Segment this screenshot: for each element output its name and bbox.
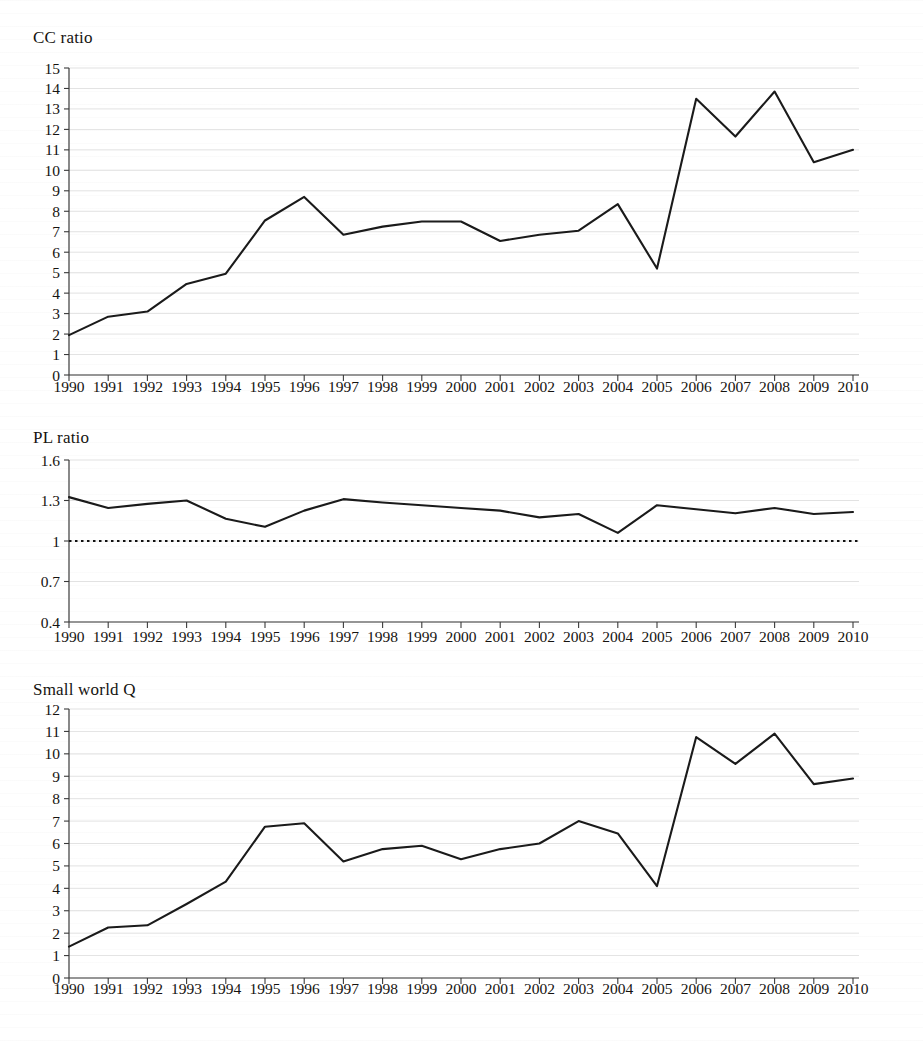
x-tick-label: 2010: [834, 378, 872, 396]
y-tick-label: 8: [52, 790, 60, 807]
x-tick-label: 2005: [638, 378, 676, 396]
x-tick-label: 2000: [442, 980, 480, 998]
x-tick-label: 2007: [716, 378, 754, 396]
x-tick-label: 1999: [403, 378, 441, 396]
y-tick-label: 9: [52, 182, 60, 199]
data-series-line: [69, 92, 853, 336]
y-tick-label: 13: [45, 100, 61, 117]
x-tick-label: 1991: [89, 980, 127, 998]
x-tick-label: 2008: [756, 980, 794, 998]
x-tick-label: 2002: [520, 378, 558, 396]
x-tick-label: 2009: [795, 378, 833, 396]
x-tick-label: 1995: [246, 628, 284, 646]
x-tick-label: 2007: [716, 628, 754, 646]
y-tick-label: 3: [52, 902, 60, 919]
x-tick-label: 1994: [207, 980, 245, 998]
x-tick-label: 2006: [677, 378, 715, 396]
x-tick-label: 1993: [168, 980, 206, 998]
x-tick-label: 1991: [89, 628, 127, 646]
y-tick-label: 7: [52, 813, 60, 830]
chart-svg-cc-ratio: 0123456789101112131415: [0, 0, 923, 410]
y-tick-label: 6: [52, 835, 60, 852]
x-tick-label: 1996: [285, 980, 323, 998]
data-series-line: [69, 497, 853, 533]
x-tick-label: 2003: [560, 628, 598, 646]
y-tick-label: 1.6: [41, 452, 61, 469]
x-tick-label: 1995: [246, 378, 284, 396]
y-tick-label: 9: [52, 768, 60, 785]
x-tick-label: 2005: [638, 628, 676, 646]
y-tick-label: 15: [45, 60, 61, 77]
x-tick-label: 1998: [364, 378, 402, 396]
x-tick-label: 2010: [834, 980, 872, 998]
x-tick-label: 2004: [599, 628, 637, 646]
x-tick-label: 2004: [599, 980, 637, 998]
y-tick-label: 3: [52, 305, 60, 322]
y-tick-label: 10: [45, 162, 61, 179]
x-tick-label: 2003: [560, 378, 598, 396]
x-tick-label: 2010: [834, 628, 872, 646]
y-tick-label: 14: [45, 80, 61, 97]
x-tick-label: 1996: [285, 628, 323, 646]
x-tick-label: 1998: [364, 980, 402, 998]
x-tick-label: 2001: [481, 628, 519, 646]
x-tick-label: 2002: [520, 628, 558, 646]
chart-svg-pl-ratio: 0.40.711.31.6: [0, 410, 923, 660]
x-tick-label: 1990: [50, 378, 88, 396]
y-tick-label: 1: [52, 346, 60, 363]
plot-area-pl-ratio: 0.40.711.31.6: [0, 410, 923, 660]
x-tick-label: 1992: [128, 980, 166, 998]
y-tick-label: 1.3: [41, 492, 61, 509]
y-tick-label: 4: [52, 880, 60, 897]
x-tick-label: 1992: [128, 378, 166, 396]
y-tick-label: 11: [45, 723, 60, 740]
chart-panel-cc-ratio: CC ratio 0123456789101112131415 19901991…: [0, 0, 923, 410]
x-tick-label: 2006: [677, 980, 715, 998]
y-tick-label: 8: [52, 203, 60, 220]
y-tick-label: 1: [52, 947, 60, 964]
x-tick-label: 2002: [520, 980, 558, 998]
y-tick-label: 6: [52, 244, 60, 261]
x-tick-label: 1997: [324, 628, 362, 646]
y-tick-label: 7: [52, 223, 60, 240]
chart-panel-pl-ratio: PL ratio 0.40.711.31.6 19901991199219931…: [0, 410, 923, 660]
x-tick-label: 1996: [285, 378, 323, 396]
x-tick-label: 2004: [599, 378, 637, 396]
x-tick-label: 2009: [795, 980, 833, 998]
y-tick-label: 2: [52, 326, 60, 343]
x-tick-label: 1997: [324, 378, 362, 396]
y-tick-label: 5: [52, 264, 60, 281]
x-tick-label: 2008: [756, 628, 794, 646]
y-tick-label: 2: [52, 925, 60, 942]
x-tick-label: 2008: [756, 378, 794, 396]
x-tick-label: 2000: [442, 378, 480, 396]
data-series-line: [69, 734, 853, 947]
chart-panel-small-world-q: Small world Q 0123456789101112 199019911…: [0, 660, 923, 1041]
x-tick-label: 2003: [560, 980, 598, 998]
x-tick-label: 2009: [795, 628, 833, 646]
x-tick-label: 2000: [442, 628, 480, 646]
x-tick-label: 1998: [364, 628, 402, 646]
x-tick-label: 2001: [481, 980, 519, 998]
x-tick-label: 1994: [207, 628, 245, 646]
x-tick-label: 2007: [716, 980, 754, 998]
y-tick-label: 12: [45, 121, 61, 138]
x-tick-label: 2006: [677, 628, 715, 646]
y-tick-label: 0.7: [41, 573, 61, 590]
y-tick-label: 4: [52, 285, 60, 302]
x-tick-label: 2005: [638, 980, 676, 998]
x-tick-label: 1992: [128, 628, 166, 646]
x-tick-label: 1999: [403, 980, 441, 998]
x-tick-label: 1994: [207, 378, 245, 396]
x-tick-label: 1993: [168, 378, 206, 396]
x-tick-label: 1999: [403, 628, 441, 646]
plot-area-cc-ratio: 0123456789101112131415: [0, 0, 923, 410]
x-tick-label: 1997: [324, 980, 362, 998]
x-tick-label: 1990: [50, 628, 88, 646]
x-tick-label: 1990: [50, 980, 88, 998]
y-tick-label: 12: [45, 701, 61, 718]
x-tick-label: 1993: [168, 628, 206, 646]
y-tick-label: 11: [45, 141, 60, 158]
x-tick-label: 1995: [246, 980, 284, 998]
y-tick-label: 5: [52, 857, 60, 874]
